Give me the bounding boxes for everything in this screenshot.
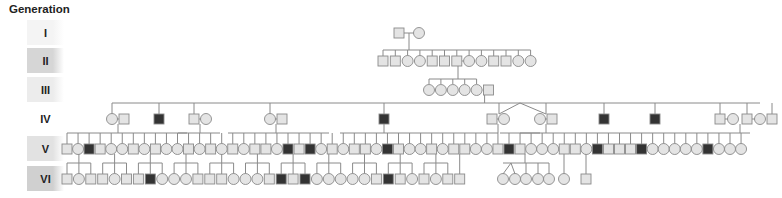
female-unaffected <box>106 144 117 155</box>
female-unaffected <box>647 144 658 155</box>
male-unaffected <box>288 174 298 184</box>
female-unaffected <box>407 174 418 185</box>
male-unaffected <box>489 56 499 66</box>
male-unaffected <box>460 144 470 154</box>
male-unaffected <box>427 56 437 66</box>
male-unaffected <box>515 144 525 154</box>
female-unaffected <box>414 28 425 39</box>
male-unaffected <box>559 144 569 154</box>
female-unaffected <box>73 144 84 155</box>
female-unaffected <box>499 114 510 125</box>
twin-line <box>503 163 511 174</box>
male-unaffected <box>261 144 271 154</box>
male-unaffected <box>443 174 453 184</box>
female-unaffected <box>404 144 415 155</box>
female-unaffected <box>371 144 382 155</box>
male-unaffected <box>189 114 199 124</box>
female-unaffected <box>347 174 358 185</box>
female-unaffected <box>157 174 168 185</box>
female-unaffected <box>521 174 532 185</box>
male-unaffected <box>742 114 752 124</box>
male-unaffected <box>547 114 557 124</box>
male-unaffected <box>228 144 238 154</box>
female-unaffected <box>525 56 536 67</box>
male-affected <box>504 144 514 154</box>
male-unaffected <box>501 56 511 66</box>
female-unaffected <box>476 56 487 67</box>
male-unaffected <box>133 174 143 184</box>
female-unaffected <box>430 174 441 185</box>
female-unaffected <box>359 174 370 185</box>
male-affected <box>154 114 164 124</box>
female-unaffected <box>323 174 334 185</box>
female-unaffected <box>526 144 537 155</box>
female-unaffected <box>537 144 548 155</box>
male-unaffected <box>767 114 777 124</box>
female-unaffected <box>658 144 669 155</box>
twin-line <box>520 103 546 114</box>
male-unaffected <box>349 144 359 154</box>
male-unaffected <box>484 85 494 95</box>
female-unaffected <box>548 144 559 155</box>
male-affected <box>283 144 293 154</box>
male-unaffected <box>615 144 625 154</box>
female-unaffected <box>535 114 546 125</box>
female-unaffected <box>169 174 180 185</box>
female-unaffected <box>139 144 150 155</box>
twin-line <box>511 163 515 174</box>
male-unaffected <box>493 144 503 154</box>
female-unaffected <box>73 174 84 185</box>
male-affected <box>84 144 94 154</box>
female-unaffected <box>238 144 249 155</box>
male-unaffected <box>455 174 465 184</box>
male-unaffected <box>150 144 160 154</box>
male-unaffected <box>205 174 215 184</box>
male-unaffected <box>603 144 613 154</box>
male-unaffected <box>390 56 400 66</box>
male-affected <box>300 174 310 184</box>
male-unaffected <box>62 174 72 184</box>
male-affected <box>305 144 315 154</box>
male-unaffected <box>626 144 636 154</box>
male-unaffected <box>95 144 105 154</box>
male-affected <box>145 174 155 184</box>
female-unaffected <box>201 114 212 125</box>
male-affected <box>703 144 713 154</box>
male-unaffected <box>449 144 459 154</box>
female-unaffected <box>109 174 120 185</box>
male-unaffected <box>217 174 227 184</box>
female-unaffected <box>316 144 327 155</box>
female-unaffected <box>252 174 263 185</box>
female-unaffected <box>414 56 425 67</box>
male-affected <box>637 144 647 154</box>
male-unaffected <box>206 144 216 154</box>
female-unaffected <box>728 114 739 125</box>
female-unaffected <box>481 144 492 155</box>
male-affected <box>379 114 389 124</box>
male-affected <box>276 174 286 184</box>
male-unaffected <box>371 174 381 184</box>
female-unaffected <box>172 144 183 155</box>
male-unaffected <box>395 174 405 184</box>
male-unaffected <box>294 144 304 154</box>
female-unaffected <box>470 144 481 155</box>
female-unaffected <box>437 144 448 155</box>
male-unaffected <box>440 56 450 66</box>
female-unaffected <box>181 174 192 185</box>
male-unaffected <box>487 114 497 124</box>
male-unaffected <box>184 144 194 154</box>
male-unaffected <box>427 144 437 154</box>
female-unaffected <box>447 85 458 96</box>
male-affected <box>650 114 660 124</box>
male-affected <box>383 174 393 184</box>
female-unaffected <box>691 144 702 155</box>
female-unaffected <box>581 144 592 155</box>
male-unaffected <box>570 144 580 154</box>
pedigree-chart <box>0 0 782 198</box>
male-unaffected <box>122 174 132 184</box>
male-unaffected <box>98 174 108 184</box>
female-unaffected <box>725 144 736 155</box>
female-unaffected <box>459 85 470 96</box>
male-unaffected <box>394 28 404 38</box>
female-unaffected <box>107 114 118 125</box>
